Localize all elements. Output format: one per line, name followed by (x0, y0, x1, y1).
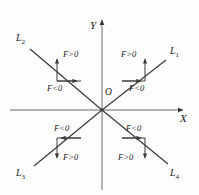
line-label-l3-sub: 3 (22, 173, 26, 181)
line-label-l4-sub: 4 (176, 173, 180, 181)
y-axis-label: Y (90, 20, 96, 31)
q2-positive-label: F>0 (63, 50, 78, 59)
x-axis-label: X (180, 113, 187, 124)
line-label-l1-sub: 1 (176, 51, 180, 59)
line-l4 (102, 110, 168, 164)
q3-positive-label: F>0 (63, 153, 78, 162)
line-label-l2: L2 (16, 33, 25, 46)
q2-negative-label: F<0 (47, 84, 62, 93)
q1-negative-label: F<0 (129, 84, 144, 93)
line-label-l3: L3 (16, 168, 25, 181)
q4-positive-label: F>0 (118, 153, 133, 162)
q1-arrows (122, 59, 145, 81)
q3-negative-label: F<0 (54, 124, 69, 133)
origin-point (101, 109, 104, 112)
line-label-l2-sub: 2 (22, 38, 26, 46)
line-label-l4: L4 (170, 168, 179, 181)
diagram-canvas: Y X O L2 L1 L3 L4 F>0 F<0 F>0 F<0 F<0 F>… (0, 0, 199, 195)
coordinate-diagram-svg (0, 0, 199, 195)
q4-negative-label: F<0 (126, 124, 141, 133)
q2-arrows (57, 59, 81, 81)
line-label-l1: L1 (170, 46, 179, 59)
q1-positive-label: F>0 (121, 50, 136, 59)
origin-label: O (105, 88, 112, 98)
